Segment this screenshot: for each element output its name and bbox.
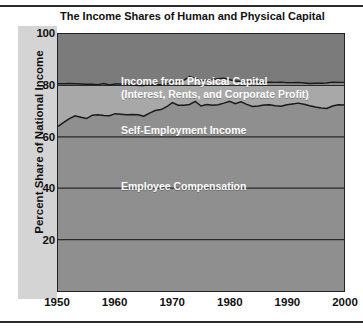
band-label-employee-compensation: Employee Compensation [121,180,246,192]
y-tick-60: 60 [43,131,55,143]
y-tick-40: 40 [43,182,55,194]
y-tick-100: 100 [36,27,55,39]
y-tick-20: 20 [43,234,55,246]
x-tick-1980: 1980 [217,296,243,308]
stacked-area-chart-svg [58,34,344,291]
x-tick-1970: 1970 [159,296,185,308]
chart-title: The Income Shares of Human and Physical … [60,10,325,22]
x-tick-2000: 2000 [332,296,358,308]
x-tick-1990: 1990 [275,296,301,308]
band-label-physical-capital-line2: (Interest, Rents, and Corporate Profit) [121,88,309,101]
y-axis-tick-labels: 10080604020 [18,26,57,299]
x-tick-1960: 1960 [102,296,128,308]
band-label-physical-capital: Income from Physical Capital (Interest, … [121,75,309,100]
band-label-self-employment: Self-Employment Income [121,124,246,136]
figure-chart-income-shares: Percent Share of National Income 1008060… [0,0,363,334]
y-tick-80: 80 [43,79,55,91]
x-tick-1950: 1950 [44,296,70,308]
top-divider-rule [0,5,363,7]
bottom-divider-rule [0,321,363,323]
band-label-physical-capital-line1: Income from Physical Capital [121,75,309,88]
x-axis-tick-labels: 195019601970198019902000 [0,296,363,316]
plot-area: Income from Physical Capital (Interest, … [57,33,345,292]
